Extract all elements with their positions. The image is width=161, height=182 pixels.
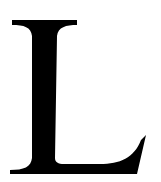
letter-l-glyph [0,0,161,182]
